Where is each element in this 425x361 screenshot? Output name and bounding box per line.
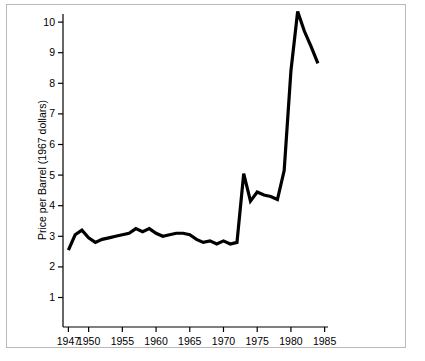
x-tick-label: 1970: [212, 335, 236, 347]
chart-figure: 12345678910 1947195019551960196519701975…: [0, 0, 425, 361]
y-tick-label: 5: [49, 169, 55, 181]
x-tick-label: 1960: [144, 335, 168, 347]
x-tick-label: 1985: [313, 335, 337, 347]
y-axis-title: Price per Barrel (1967 dollars): [36, 100, 48, 240]
y-tick-label: 2: [49, 260, 55, 272]
x-tick-label: 1950: [77, 335, 101, 347]
x-tick-label: 1955: [111, 335, 135, 347]
oil-price-line-chart: 12345678910 1947195019551960196519701975…: [0, 0, 425, 361]
y-tick-label: 8: [49, 77, 55, 89]
x-axis-ticks: 194719501955196019651970197519801985: [57, 327, 337, 347]
y-tick-label: 7: [49, 107, 55, 119]
price-series-line: [68, 11, 318, 250]
axes: [63, 14, 328, 327]
x-tick-label: 1965: [178, 335, 202, 347]
y-tick-label: 1: [49, 291, 55, 303]
y-tick-label: 4: [49, 199, 55, 211]
y-tick-label: 10: [43, 16, 55, 28]
x-tick-label: 1980: [279, 335, 303, 347]
y-tick-label: 3: [49, 230, 55, 242]
y-tick-label: 9: [49, 46, 55, 58]
y-tick-label: 6: [49, 138, 55, 150]
x-tick-label: 1975: [246, 335, 270, 347]
